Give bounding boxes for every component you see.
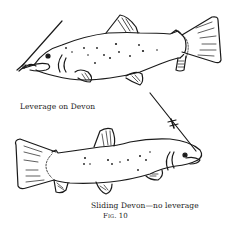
top-fish-body	[34, 17, 221, 65]
fig-10-illustration	[0, 0, 234, 233]
bottom-dorsal-fin	[94, 128, 115, 147]
bottom-fish-body	[52, 139, 202, 184]
caption-leverage-on-devon: Leverage on Devon	[20, 102, 95, 111]
bottom-fish-spots	[83, 151, 151, 171]
top-fish	[17, 15, 221, 85]
bottom-pelvic-fin	[96, 182, 112, 194]
top-fishing-line	[22, 21, 62, 66]
caption-sliding-devon: Sliding Devon—no leverage	[91, 201, 199, 210]
top-fish-spots	[65, 43, 158, 64]
figure-label: Fig. 10	[103, 212, 128, 220]
bottom-fishing-line	[150, 93, 196, 151]
